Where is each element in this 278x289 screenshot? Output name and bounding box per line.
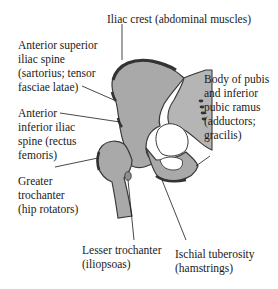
lesser-trochanter	[125, 172, 131, 180]
label-ischial-tuberosity: Ischial tuberosity (hamstrings)	[175, 247, 255, 275]
label-body-of-pubis: Body of pubis and inferior pubic ramus (…	[204, 72, 269, 142]
label-iliac-crest: Iliac crest (abdominal muscles)	[107, 12, 251, 26]
label-lesser-trochanter: Lesser trochanter (iliopsoas)	[82, 243, 162, 271]
label-anterior-inferior-iliac-spine: Anterior inferior iliac spine (rectus fe…	[18, 106, 76, 162]
label-greater-trochanter: Greater trochanter (hip rotators)	[18, 174, 78, 216]
greater-trochanter-attachment	[98, 152, 100, 170]
label-anterior-superior-iliac-spine: Anterior superior iliac spine (sartorius…	[18, 38, 98, 94]
